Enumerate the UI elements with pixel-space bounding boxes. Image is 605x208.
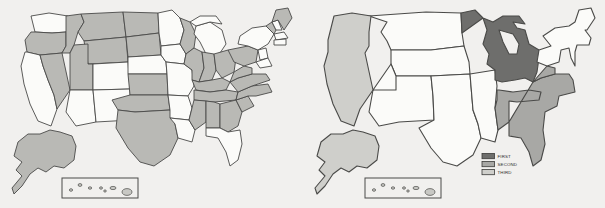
state-texas bbox=[116, 110, 178, 166]
state-florida bbox=[206, 128, 242, 166]
left-map-panel bbox=[0, 0, 302, 208]
legend-label-first: FIRST bbox=[498, 154, 512, 159]
legend-swatch-first bbox=[482, 154, 495, 159]
hawaii-islands bbox=[69, 184, 132, 196]
state-oklahoma bbox=[112, 95, 170, 112]
right-map-svg: FIRST SECOND THIRD bbox=[303, 0, 605, 208]
region-rank-legend: FIRST SECOND THIRD bbox=[482, 154, 517, 176]
legend-label-third: THIRD bbox=[498, 170, 512, 175]
state-colorado bbox=[93, 62, 130, 90]
legend-label-second: SECOND bbox=[498, 162, 518, 167]
region-second-southeast bbox=[495, 74, 575, 166]
state-arkansas bbox=[168, 95, 192, 120]
state-alaska bbox=[12, 130, 76, 194]
left-map-svg bbox=[0, 0, 302, 208]
right-map-panel: FIRST SECOND THIRD bbox=[303, 0, 605, 208]
state-minnesota bbox=[158, 10, 184, 46]
legend-swatch-second bbox=[482, 162, 495, 167]
state-connecticut-rhode-island bbox=[274, 39, 286, 45]
state-new-york bbox=[238, 26, 274, 50]
state-south-dakota bbox=[126, 33, 161, 57]
region-interior-west-north bbox=[369, 12, 464, 50]
region-third-pacific-coast bbox=[324, 13, 373, 126]
two-map-figure: FIRST SECOND THIRD bbox=[0, 0, 605, 208]
state-wyoming bbox=[84, 37, 128, 64]
state-arizona bbox=[66, 90, 96, 126]
state-kansas bbox=[128, 74, 168, 95]
state-montana bbox=[78, 12, 126, 41]
region-plains-gap bbox=[373, 64, 396, 90]
state-nebraska bbox=[128, 55, 167, 74]
state-washington bbox=[31, 13, 70, 33]
region-third-alaska bbox=[315, 130, 379, 194]
region-northeast-unshaded bbox=[537, 8, 595, 66]
region-interior-west-central bbox=[391, 46, 470, 76]
legend-swatch-third bbox=[482, 170, 495, 175]
hawaii-islands bbox=[372, 184, 435, 196]
region-first-great-lakes bbox=[461, 10, 539, 82]
state-alabama bbox=[206, 101, 220, 128]
state-oregon bbox=[25, 32, 66, 55]
state-maryland-delaware bbox=[256, 58, 272, 68]
